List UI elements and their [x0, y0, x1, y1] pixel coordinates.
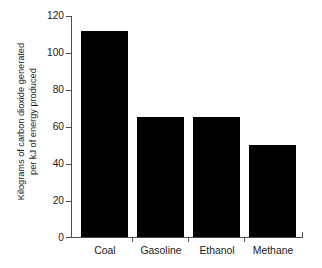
x-category-label-methane: Methane: [245, 245, 301, 257]
x-tick-mark-1: [132, 237, 133, 242]
bar-gasoline[interactable]: [137, 117, 184, 237]
x-category-label-ethanol: Ethanol: [189, 245, 245, 257]
x-axis-line: [71, 237, 303, 238]
bar-ethanol[interactable]: [193, 117, 240, 237]
bar-methane[interactable]: [249, 145, 296, 237]
x-tick-mark-2: [188, 237, 189, 242]
bar-chart-figure: Kilograms of carbon dioxide generated pe…: [0, 0, 322, 268]
plot-area: [72, 16, 303, 237]
x-category-label-coal: Coal: [77, 245, 133, 257]
x-category-label-gasoline: Gasoline: [133, 245, 189, 257]
bar-coal[interactable]: [81, 31, 128, 237]
x-tick-mark-3: [244, 237, 245, 242]
